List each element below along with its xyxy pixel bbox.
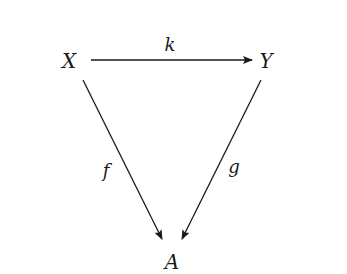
arrow-g — [182, 80, 261, 239]
node-a-label: A — [165, 252, 179, 272]
commutative-diagram: X Y A k f g — [0, 0, 347, 274]
edge-f-label: f — [103, 162, 110, 180]
node-y-label: Y — [259, 51, 272, 71]
edge-k-label: k — [165, 36, 176, 54]
node-x-label: X — [62, 51, 76, 71]
edge-g-label: g — [228, 158, 240, 176]
arrow-f — [83, 80, 162, 239]
